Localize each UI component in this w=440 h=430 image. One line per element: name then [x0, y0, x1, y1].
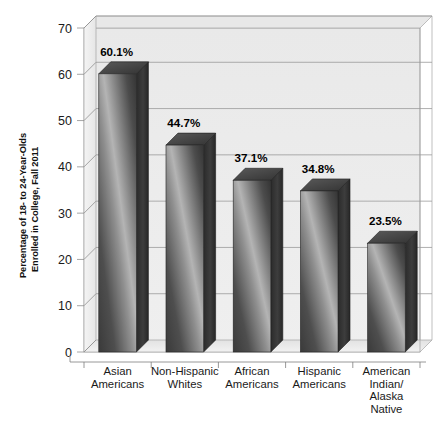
y-tick-label: 50 — [58, 114, 72, 128]
bar — [99, 62, 149, 352]
chart-canvas: 010203040506070 60.1%44.7%37.1%34.8%23.5… — [0, 0, 440, 430]
x-axis-category-label: Alaska — [369, 390, 404, 402]
x-axis-category-label: American — [363, 365, 411, 377]
bar — [300, 179, 350, 352]
bar-value-label: 23.5% — [369, 214, 402, 227]
bar — [166, 133, 216, 352]
x-axis-category-label: Americans — [225, 378, 279, 390]
y-axis-title: Percentage of 18- to 24-Year-Olds Enroll… — [18, 133, 40, 278]
bar-value-label: 34.8% — [302, 162, 335, 175]
x-axis-category-label: Asian — [103, 365, 131, 377]
bar-side-face — [338, 179, 350, 352]
bar-side-face — [271, 168, 283, 352]
bar-chart-figure: 010203040506070 60.1%44.7%37.1%34.8%23.5… — [0, 0, 440, 430]
bar — [233, 168, 283, 352]
bar-front-face — [166, 145, 204, 352]
x-axis-category-label: Whites — [168, 378, 203, 390]
y-tick-label: 70 — [58, 22, 72, 36]
y-axis-title-line-1: Percentage of 18- to 24-Year-Olds — [18, 133, 28, 278]
x-axis-category-label: Americans — [293, 378, 347, 390]
y-tick-label: 10 — [58, 299, 72, 313]
x-axis-category-label: Indian/ — [369, 378, 404, 390]
y-tick-label: 20 — [58, 253, 72, 267]
bar-front-face — [300, 191, 338, 352]
x-axis-category-label: Non-Hispanic — [151, 365, 219, 377]
y-tick-label: 60 — [58, 68, 72, 82]
plot-top-face — [84, 16, 432, 28]
bar-value-label: 37.1% — [235, 151, 268, 164]
bar-front-face — [99, 74, 137, 352]
bar-front-face — [368, 243, 406, 352]
bar-front-face — [233, 180, 271, 352]
plot-left-wall — [84, 16, 96, 352]
x-axis-category-label: Americans — [91, 378, 145, 390]
y-tick-label: 0 — [65, 346, 72, 360]
bar-side-face — [136, 62, 148, 352]
y-tick-label: 30 — [58, 207, 72, 221]
y-tick-label: 40 — [58, 160, 72, 174]
y-axis-title-line-2: Enrolled in College, Fall 2011 — [30, 147, 40, 272]
bar-side-face — [204, 133, 216, 352]
x-axis-category-label: Hispanic — [298, 365, 342, 377]
x-axis-category-label: Native — [370, 403, 402, 415]
bar — [368, 231, 418, 352]
bar-side-face — [405, 231, 417, 352]
x-axis-category-labels: AsianAmericansNon-HispanicWhitesAfricanA… — [91, 365, 410, 415]
bar-value-label: 60.1% — [100, 45, 133, 58]
bar-value-label: 44.7% — [167, 116, 200, 129]
x-axis-category-label: African — [234, 365, 269, 377]
